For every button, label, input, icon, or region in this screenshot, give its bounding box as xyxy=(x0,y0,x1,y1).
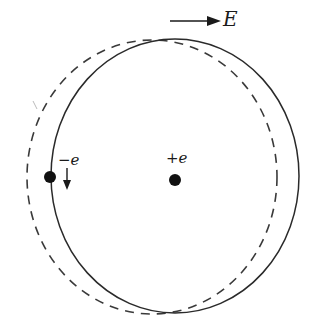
electric-field-arrow-icon xyxy=(170,16,221,26)
undisturbed-orbit-dashed xyxy=(27,40,277,314)
electron-charge-label: −e xyxy=(58,153,79,168)
stray-mark xyxy=(33,101,37,109)
electron-dot-icon xyxy=(44,171,56,183)
field-label: E xyxy=(223,9,238,29)
nucleus-charge-label: +e xyxy=(166,151,187,166)
diagram-canvas: E −e +e xyxy=(0,0,318,327)
diagram-svg xyxy=(0,0,318,327)
nucleus-dot-icon xyxy=(169,174,181,186)
electron-motion-arrow-icon xyxy=(63,168,71,190)
